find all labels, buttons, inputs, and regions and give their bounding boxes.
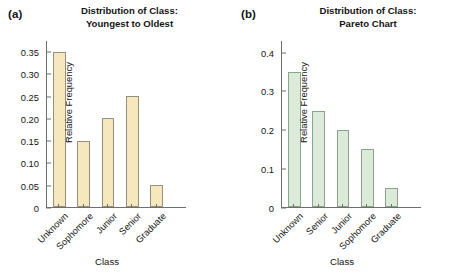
x-tick-a-3 xyxy=(131,204,132,208)
x-axis-title-a: Class xyxy=(46,256,168,267)
y-tick-a-6 xyxy=(46,74,51,75)
chart-title-b: Distribution of Class: Pareto Chart xyxy=(293,5,443,30)
y-tick-b-0 xyxy=(281,208,286,209)
x-tick-b-4 xyxy=(391,204,392,208)
x-tick-labels-b: UnknownSeniorJuniorSophomoreGraduate xyxy=(281,208,403,256)
y-tick-a-7 xyxy=(46,52,51,53)
y-tick-label-a-7: 0.35 xyxy=(21,47,39,58)
figure-two-bar-charts: (a) Distribution of Class: Youngest to O… xyxy=(0,0,451,278)
bar-a-senior xyxy=(126,96,139,207)
bar-b-junior xyxy=(337,130,350,207)
y-axis-title-a: Relative Frequency xyxy=(63,43,74,163)
y-tick-label-a-2: 0.10 xyxy=(21,158,39,169)
panel-b: (b) Distribution of Class: Pareto Chart … xyxy=(225,0,451,278)
x-tick-a-4 xyxy=(156,204,157,208)
x-tick-label-a-2: Junior xyxy=(94,211,119,236)
y-tick-b-1 xyxy=(281,169,286,170)
y-tick-label-a-0: 0 xyxy=(34,203,39,214)
chart-title-a: Distribution of Class: Youngest to Oldes… xyxy=(52,5,207,30)
y-tick-a-3 xyxy=(46,141,51,142)
y-tick-a-2 xyxy=(46,163,51,164)
x-tick-labels-a: UnknownSophomoreJuniorSeniorGraduate xyxy=(46,208,168,256)
y-tick-label-a-1: 0.05 xyxy=(21,180,39,191)
y-tick-label-a-5: 0.25 xyxy=(21,91,39,102)
bar-b-graduate xyxy=(385,188,398,207)
y-axis-title-b: Relative Frequency xyxy=(298,43,309,163)
bar-b-senior xyxy=(312,111,325,208)
panel-label-a: (a) xyxy=(8,8,22,20)
y-tick-a-4 xyxy=(46,118,51,119)
x-axis-title-b: Class xyxy=(281,256,403,267)
x-tick-a-1 xyxy=(83,204,84,208)
x-tick-a-0 xyxy=(58,204,59,208)
y-tick-label-a-4: 0.20 xyxy=(21,113,39,124)
plot-area-b: UnknownSeniorJuniorSophomoreGraduate Rel… xyxy=(281,41,403,208)
x-tick-b-1 xyxy=(318,204,319,208)
y-tick-a-5 xyxy=(46,96,51,97)
bar-b-sophomore xyxy=(361,149,374,207)
x-tick-label-b-0: Unknown xyxy=(271,211,305,245)
y-tick-label-a-3: 0.15 xyxy=(21,136,39,147)
x-tick-label-b-1: Senior xyxy=(304,211,330,237)
panel-label-b: (b) xyxy=(241,8,256,20)
y-tick-b-3 xyxy=(281,91,286,92)
y-tick-b-2 xyxy=(281,130,286,131)
y-tick-b-4 xyxy=(281,52,286,53)
y-tick-label-b-0: 0 xyxy=(269,203,274,214)
y-tick-label-b-1: 0.1 xyxy=(261,164,274,175)
y-tick-label-a-6: 0.30 xyxy=(21,69,39,80)
panel-a: (a) Distribution of Class: Youngest to O… xyxy=(0,0,225,278)
y-tick-label-b-3: 0.3 xyxy=(261,86,274,97)
x-tick-b-2 xyxy=(342,204,343,208)
plot-area-a: UnknownSophomoreJuniorSeniorGraduate Rel… xyxy=(46,41,168,208)
bar-a-sophomore xyxy=(77,141,90,207)
y-tick-a-0 xyxy=(46,208,51,209)
y-tick-a-1 xyxy=(46,185,51,186)
bar-a-graduate xyxy=(150,185,163,207)
x-tick-b-0 xyxy=(293,204,294,208)
x-tick-b-3 xyxy=(366,204,367,208)
x-tick-a-2 xyxy=(107,204,108,208)
y-tick-label-b-4: 0.4 xyxy=(261,47,274,58)
bar-a-junior xyxy=(102,118,115,207)
y-tick-label-b-2: 0.2 xyxy=(261,125,274,136)
